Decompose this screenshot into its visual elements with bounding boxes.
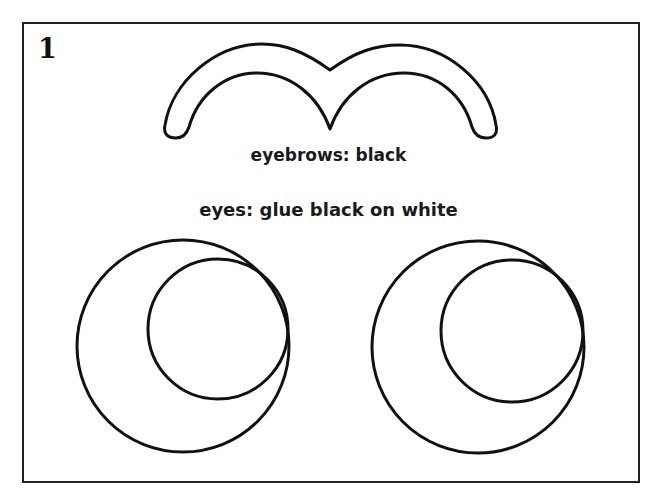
left-eye [77, 240, 289, 452]
eyebrows-label: eyebrows: black [0, 145, 657, 165]
eyes-label: eyes: glue black on white [0, 199, 657, 220]
pattern-artwork [0, 0, 657, 502]
eyebrows-shape [165, 44, 497, 138]
right-eye [372, 241, 584, 453]
